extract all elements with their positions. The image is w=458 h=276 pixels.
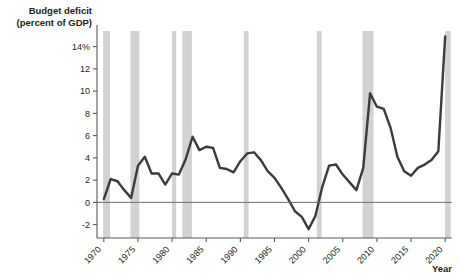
recession-bands-group [103,31,450,238]
recession-band [363,31,374,238]
y-tick-label: -2 [82,220,90,230]
recession-band [172,31,176,238]
y-tick-label: 12 [80,64,90,74]
x-axis-group: 1970197519801985199019952000200520102015… [82,238,452,266]
budget-deficit-chart: -202468101214% 1970197519801985199019952… [0,0,458,276]
x-tick-label: 2005 [321,244,342,265]
x-tick-label: 1975 [116,244,137,265]
data-line-budget-deficit-percent-of-gdp [104,37,445,230]
y-axis-title-line2: (percent of GDP) [17,17,92,28]
y-tick-label: 2 [85,175,90,185]
x-tick-label: 1995 [253,244,274,265]
x-tick-label: 1985 [184,244,205,265]
x-tick-label: 2000 [287,244,308,265]
x-tick-label: 1980 [150,244,171,265]
y-tick-label: 8 [85,109,90,119]
y-axis-group: -202468101214% [72,25,97,238]
recession-band [103,31,110,238]
y-tick-label: 10 [80,86,90,96]
x-tick-label: 1990 [219,244,240,265]
recession-band [244,31,249,238]
y-tick-label: 14% [72,42,90,52]
x-axis-title: Year [432,263,452,274]
plot-lines-group [104,37,445,230]
y-tick-label: 0 [85,198,90,208]
x-tick-label: 1970 [82,244,103,265]
recession-band [445,31,450,238]
chart-canvas: -202468101214% 1970197519801985199019952… [0,0,458,276]
y-tick-label: 6 [85,131,90,141]
y-tick-label: 4 [85,153,90,163]
recession-band [130,31,139,238]
y-axis-title-group: Budget deficit (percent of GDP) [17,5,93,28]
y-axis-title-line1: Budget deficit [29,5,93,16]
x-tick-label: 2015 [389,244,410,265]
x-tick-label: 2010 [355,244,376,265]
recession-band [182,31,192,238]
